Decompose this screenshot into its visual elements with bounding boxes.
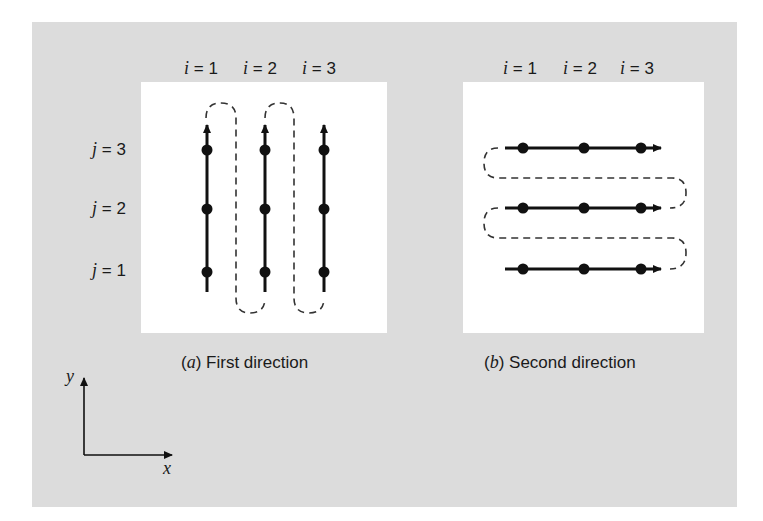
diagram-drawing — [0, 0, 763, 521]
figure: i = 1 i = 2 i = 3 j = 3 j = 2 j = 1 i = … — [0, 0, 763, 521]
coordinate-axes — [84, 378, 172, 455]
